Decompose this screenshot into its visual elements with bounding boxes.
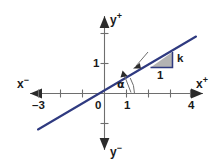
slope-triangle-fill bbox=[151, 52, 173, 68]
run-pointer-line bbox=[136, 52, 148, 66]
axis-label-y-positive: y+ bbox=[110, 14, 122, 26]
tick-label-x-1: 1 bbox=[124, 100, 130, 112]
rise-label-k: k bbox=[177, 53, 183, 65]
graph-canvas bbox=[0, 0, 213, 166]
run-label: 1 bbox=[157, 70, 163, 82]
tick-label-y-1: 1 bbox=[93, 58, 99, 70]
tick-label-origin: 0 bbox=[95, 100, 101, 112]
y-negative-arrow-icon bbox=[100, 138, 110, 150]
x-negative-arrow-icon bbox=[30, 89, 42, 99]
axis-label-y-negative: y− bbox=[110, 146, 122, 158]
tick-label-x-minus3: –3 bbox=[32, 100, 45, 112]
coordinate-system-figure: x− x+ y+ y− –3 0 1 4 1 α 1 k bbox=[0, 0, 213, 166]
axis-label-x-positive: x+ bbox=[196, 78, 208, 90]
axis-label-x-negative: x− bbox=[17, 78, 29, 90]
tick-label-x-4: 4 bbox=[188, 100, 194, 112]
y-positive-arrow-icon bbox=[100, 16, 110, 28]
angle-label-alpha: α bbox=[117, 79, 125, 90]
run-pointer-head-icon bbox=[133, 63, 141, 69]
